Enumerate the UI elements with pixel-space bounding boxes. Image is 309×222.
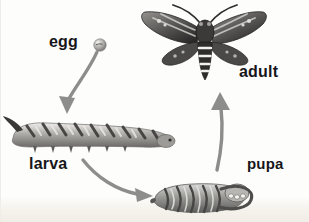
arrow-egg-to-larva — [59, 52, 97, 114]
life-cycle-diagram: egg larva pupa adult — [0, 0, 309, 222]
stage-label-pupa: pupa — [247, 155, 284, 172]
stage-label-larva: larva — [29, 155, 67, 173]
stage-label-adult: adult — [239, 63, 278, 81]
chrysalis-icon — [149, 176, 261, 220]
arrow-larva-to-pupa — [83, 160, 153, 202]
egg-art — [91, 36, 109, 54]
stage-label-egg: egg — [49, 33, 78, 51]
arrow-pupa-to-adult — [211, 92, 230, 170]
caterpillar-icon — [3, 110, 179, 158]
egg-sphere-icon — [91, 36, 109, 54]
larva-art — [3, 110, 179, 158]
pupa-art — [149, 176, 261, 220]
